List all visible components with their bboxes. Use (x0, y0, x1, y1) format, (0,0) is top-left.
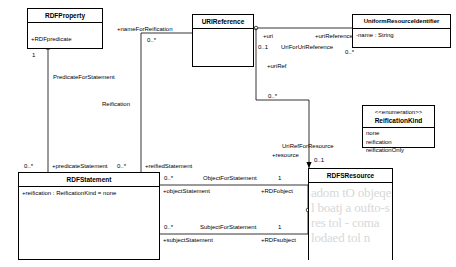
mult-predicate-source: 1 (32, 52, 35, 59)
mult-uri-for-uri-reference-source: 0..1 (258, 44, 268, 51)
class-uri-reference[interactable]: URIReference (192, 14, 254, 67)
watermark-text: l boatj a oufto-s (311, 200, 390, 215)
class-rdf-statement-attributes: +reification : ReificationKind = none (19, 187, 159, 265)
role-resource: +resource (272, 152, 299, 159)
class-uniform-resource-identifier-name: UniformResourceIdentifier (353, 15, 450, 28)
mult-object-for-statement-target: 1 (278, 175, 281, 182)
class-uniform-resource-identifier[interactable]: UniformResourceIdentifier -name : String (352, 14, 451, 48)
class-rdfs-resource-body: adom tO objeqe l boatj a oufto-s res tol… (309, 183, 392, 261)
enum-literal: reification (366, 138, 431, 147)
assoc-name-reification: Reification (102, 101, 130, 108)
role-rdf-object: +RDFobject (261, 188, 293, 195)
class-rdfs-resource-name: RDFSResource (309, 169, 392, 182)
role-reified-statement: +reifiedStatement (145, 163, 192, 170)
mult-uri-ref-for-resource-target: 0..1 (314, 157, 324, 164)
watermark-text: lodaed tol n (311, 230, 370, 245)
role-uri-reference: +uriReference (315, 33, 353, 40)
mult-reification-target: 0..* (117, 163, 126, 170)
mult-predicate-target: 0..* (24, 163, 33, 170)
class-reification-kind-enumeration[interactable]: <<enumeration>> ReificationKind none rei… (362, 105, 435, 148)
class-reification-kind-literals: none reification reificationOnly (363, 128, 434, 157)
assoc-name-object-for-statement: ObjectForStatement (203, 175, 257, 182)
role-object-statement: +objectStatement (163, 188, 210, 195)
role-name-for-reification: +nameForReification (117, 26, 173, 33)
role-subject-statement: +subjectStatement (163, 237, 213, 244)
class-reification-kind-name: ReificationKind (363, 116, 434, 127)
class-rdf-statement[interactable]: RDFStatement +reification : ReificationK… (18, 172, 160, 260)
assoc-name-uri-for-uri-reference: UriForUriReference (281, 44, 333, 51)
mult-subject-for-statement-target: 1 (278, 224, 281, 231)
class-uri-reference-attributes (193, 29, 253, 84)
class-rdf-property[interactable]: RDFProperty +RDFpredicate (27, 8, 103, 49)
role-uri-ref: +uriRef (267, 63, 287, 70)
mult-uri-ref-for-resource-source: 0..* (268, 93, 277, 100)
mult-reification-source: 0..* (147, 37, 156, 44)
watermark-text: res tol - coma (311, 215, 379, 230)
watermark-text: adom tO objeqe (311, 185, 391, 200)
attribute-row: +reification : ReificationKind = none (22, 189, 156, 198)
mult-subject-for-statement-source: 0..* (164, 224, 173, 231)
assoc-name-predicate-for-statement: PredicateForStatement (53, 74, 115, 81)
class-rdf-property-name: RDFProperty (28, 9, 102, 22)
class-uniform-resource-identifier-attributes: -name : String (353, 29, 450, 42)
assoc-name-subject-for-statement: SubjectForStatement (200, 224, 256, 231)
class-uri-reference-name: URIReference (193, 15, 253, 28)
mult-object-for-statement-source: 0..* (164, 175, 173, 182)
mult-uri-for-uri-reference-target: 0..* (345, 49, 354, 56)
attribute-row: +RDFpredicate (31, 35, 99, 44)
assoc-name-uri-ref-for-resource: UriRefForResource (282, 143, 334, 150)
class-rdf-property-attributes: +RDFpredicate (28, 23, 102, 46)
role-rdf-subject: +RDFsubject (261, 237, 296, 244)
enumeration-stereotype: <<enumeration>> (363, 106, 434, 116)
role-uri: +uri (263, 33, 273, 40)
enum-literal: none (366, 129, 431, 138)
role-predicate-statement: +predicateStatement (52, 163, 108, 170)
class-rdfs-resource[interactable]: RDFSResource adom tO objeqe l boatj a ou… (308, 168, 393, 260)
enum-literal: reificationOnly (366, 146, 431, 155)
attribute-row: -name : String (356, 31, 447, 40)
uml-class-diagram: RDFProperty +RDFpredicate URIReference U… (0, 0, 456, 267)
class-rdf-statement-name: RDFStatement (19, 173, 159, 186)
